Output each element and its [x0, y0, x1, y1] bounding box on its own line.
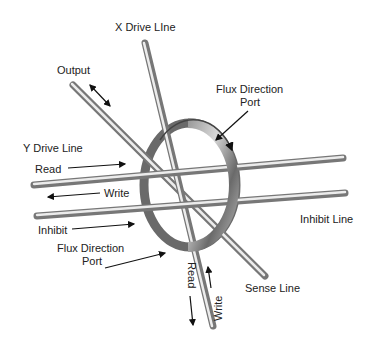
inhibit-line-label: Inhibit Line — [300, 213, 353, 225]
inhibit-rod — [37, 192, 345, 216]
read-bottom-label: Read — [186, 262, 198, 288]
x-drive-line-label: X Drive LIne — [115, 21, 176, 33]
y-drive-line-label: Y Drive Line — [23, 142, 83, 154]
inhibit-arrow — [72, 224, 134, 229]
flux-direction-top-label-1: Flux Direction — [216, 83, 283, 95]
inhibit-label: Inhibit — [38, 224, 67, 236]
write-left-label: Write — [104, 187, 129, 199]
write-bottom-arrow — [208, 267, 211, 288]
flux-direction-bottom-arrow — [105, 253, 165, 268]
read-left-label: Read — [35, 163, 61, 175]
flux-direction-top-arrow — [216, 111, 248, 140]
flux-direction-bottom-label-1: Flux Direction — [57, 242, 124, 254]
output-label: Output — [57, 64, 90, 76]
x-drive-rod — [144, 43, 213, 326]
core-memory-diagram: X Drive LIne Output Flux Direction Port … — [0, 0, 374, 343]
write-left-arrow — [48, 193, 100, 197]
flux-direction-top-label-2: Port — [240, 96, 260, 108]
sense-line-label: Sense Line — [245, 282, 300, 294]
y-drive-rod — [34, 157, 343, 185]
write-bottom-label: Write — [212, 296, 224, 321]
flux-direction-bottom-label-2: Port — [82, 255, 102, 267]
read-bottom-arrow — [190, 296, 193, 325]
read-left-arrow — [68, 164, 125, 168]
